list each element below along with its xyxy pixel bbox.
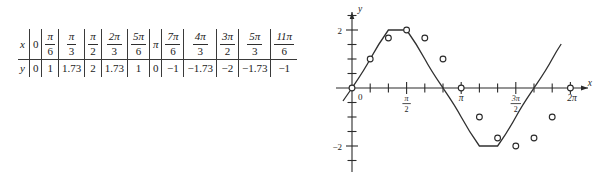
table-cell-x-9: 3π 2 bbox=[216, 29, 238, 60]
table-cell-x-10: 5π 3 bbox=[238, 29, 270, 60]
table-cell-y-0: 0 bbox=[29, 60, 42, 78]
x-value-11: 11π 6 bbox=[274, 31, 294, 56]
table-cell-y-5: 1 bbox=[127, 60, 149, 78]
table-cell-y-7: −1 bbox=[162, 60, 184, 78]
x-tick-label-1-num: π bbox=[405, 94, 410, 103]
data-point bbox=[367, 56, 373, 62]
x-value-0: 0 bbox=[33, 39, 39, 50]
table-cell-x-8: 4π 3 bbox=[184, 29, 216, 60]
x-tick-label-3-den: 2 bbox=[514, 105, 518, 114]
row-label-y: y bbox=[18, 60, 29, 78]
table-cell-y-4: 1.73 bbox=[101, 60, 127, 78]
table-cell-x-4: 2π 3 bbox=[101, 29, 127, 60]
data-point bbox=[386, 35, 392, 41]
data-point bbox=[458, 85, 464, 91]
x-tick-label-4: 2π bbox=[567, 93, 577, 103]
table-cell-y-10: −1.73 bbox=[238, 60, 270, 78]
data-point bbox=[568, 85, 574, 91]
x-value-9: 3π 2 bbox=[220, 31, 235, 56]
data-point bbox=[549, 114, 555, 120]
table-cell-x-3: π 2 bbox=[85, 29, 102, 60]
x-value-10: 5π 3 bbox=[247, 31, 262, 56]
table-cell-x-1: π 6 bbox=[42, 29, 59, 60]
table-cell-x-11: 11π 6 bbox=[271, 29, 297, 60]
x-value-1: π 6 bbox=[45, 31, 55, 56]
figure-container: x 0 π 6 π 3 bbox=[0, 0, 602, 179]
data-point bbox=[495, 135, 501, 141]
table-cell-x-7: 7π 6 bbox=[162, 29, 184, 60]
y-axis bbox=[350, 12, 355, 172]
x-value-8: 4π 3 bbox=[193, 31, 208, 56]
table-cell-y-2: 1.73 bbox=[58, 60, 84, 78]
table-cell-y-3: 2 bbox=[85, 60, 102, 78]
y-tick-label-1: −2 bbox=[332, 142, 342, 152]
data-point bbox=[422, 35, 428, 41]
x-value-3: π 2 bbox=[88, 31, 98, 56]
data-point bbox=[477, 114, 483, 120]
x-tick-label-pi-over-2: π 2 bbox=[402, 94, 410, 114]
x-axis-label: x bbox=[587, 78, 593, 88]
y-axis-label: y bbox=[357, 4, 363, 14]
x-tick-label-3-num: 3π bbox=[511, 94, 521, 103]
table-cell-y-11: −1 bbox=[271, 60, 297, 78]
x-value-6: π bbox=[153, 39, 159, 50]
x-value-4: 2π 3 bbox=[107, 31, 122, 56]
table-cell-y-8: −1.73 bbox=[184, 60, 216, 78]
row-label-x: x bbox=[18, 29, 29, 60]
table-cell-x-6: π bbox=[149, 29, 162, 60]
data-point bbox=[349, 85, 355, 91]
x-value-5: 5π 6 bbox=[131, 31, 146, 56]
data-point bbox=[440, 56, 446, 62]
table-cell-x-2: π 3 bbox=[58, 29, 84, 60]
data-point bbox=[404, 27, 410, 33]
x-value-7: 7π 6 bbox=[165, 31, 180, 56]
x-tick-label-0: 0 bbox=[358, 92, 363, 102]
x-value-2: π 3 bbox=[67, 31, 77, 56]
y-tick-label-0: 2 bbox=[338, 26, 343, 36]
data-point bbox=[531, 135, 537, 141]
table-row-x: x 0 π 6 π 3 bbox=[18, 29, 297, 60]
table-cell-x-0: 0 bbox=[29, 29, 42, 60]
value-table: x 0 π 6 π 3 bbox=[18, 29, 297, 77]
table-cell-y-9: −2 bbox=[216, 60, 238, 78]
x-tick-label-1-den: 2 bbox=[405, 105, 409, 114]
table-row-y: y 0 1 1.73 2 1.73 1 0 −1 −1.73 −2 −1.73 … bbox=[18, 60, 297, 78]
x-tick-label-2: π bbox=[459, 93, 464, 103]
data-point bbox=[513, 143, 519, 149]
graph-svg: x y 0 π 2 π 3π 2 2π 2 −2 bbox=[300, 0, 602, 179]
table-cell-x-5: 5π 6 bbox=[127, 29, 149, 60]
table-cell-y-6: 0 bbox=[149, 60, 162, 78]
sine-graph: x y 0 π 2 π 3π 2 2π 2 −2 bbox=[300, 0, 602, 179]
table-cell-y-1: 1 bbox=[42, 60, 59, 78]
